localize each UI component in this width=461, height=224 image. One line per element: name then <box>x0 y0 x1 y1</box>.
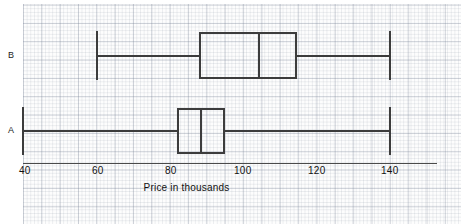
x-tick-label-80: 80 <box>165 165 177 176</box>
box-plot-figure: B A 40 60 80 100 120 140 Price in thousa… <box>0 0 461 224</box>
category-label-b: B <box>8 50 14 60</box>
x-axis-line <box>23 163 437 164</box>
a-whisker-lower-line <box>22 130 177 132</box>
category-label-a: A <box>8 125 14 135</box>
a-median-line <box>200 108 202 154</box>
x-axis-title: Price in thousands <box>0 182 461 193</box>
b-whisker-upper-cap <box>389 31 391 80</box>
b-whisker-lower-line <box>96 55 199 57</box>
x-tick-label-40: 40 <box>19 165 31 176</box>
b-whisker-lower-cap <box>96 31 98 80</box>
x-tick-label-140: 140 <box>381 165 399 176</box>
b-whisker-upper-line <box>296 55 390 57</box>
plot-area: B A 40 60 80 100 120 140 Price in thousa… <box>0 0 461 224</box>
x-tick-label-60: 60 <box>92 165 104 176</box>
a-whisker-upper-cap <box>389 107 391 155</box>
a-whisker-lower-cap <box>22 107 24 155</box>
x-tick-label-120: 120 <box>308 165 326 176</box>
x-tick-label-100: 100 <box>234 165 252 176</box>
a-whisker-upper-line <box>224 130 390 132</box>
b-median-line <box>258 32 260 79</box>
b-box <box>199 32 297 79</box>
x-axis-title-text: Price in thousands <box>144 182 230 193</box>
